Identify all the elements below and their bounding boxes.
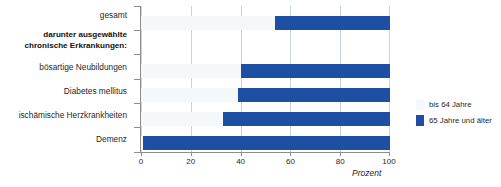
category-label-boesartige-neubildungen: bösartige Neubildungen (39, 62, 127, 73)
x-axis-line (141, 152, 390, 153)
y-axis-tick (134, 79, 141, 80)
bar-segment-bis-64-jahre (141, 64, 241, 78)
legend-swatch-icon-bis-64-jahre (416, 99, 424, 110)
category-group-header-line2: chronische Erkrankungen: (24, 41, 127, 50)
x-axis-tick-label-40: 40 (236, 157, 245, 166)
x-axis-tick-label-0: 0 (139, 157, 143, 166)
category-label-ischaemische-herzkrankheiten: ischämische Herzkrankheiten (19, 110, 127, 121)
legend-label-65-jahre-und-aelter: 65 Jahre und älter (429, 116, 492, 125)
y-axis-tick (134, 6, 141, 7)
y-axis-category-labels: gesamt darunter ausgewählte chronische E… (0, 0, 133, 152)
bar-row-ischaemische-herzkrankheiten (141, 112, 390, 126)
bar-row-gesamt (141, 16, 390, 30)
x-axis-tick (241, 152, 242, 156)
legend-swatch-icon-65-jahre-und-aelter (416, 115, 424, 126)
bar-segment-65-jahre-und-aelter (275, 16, 390, 30)
bar-segment-65-jahre-und-aelter (241, 64, 390, 78)
legend-item-bis-64-jahre: bis 64 Jahre (416, 96, 492, 112)
x-axis-tick-label-100: 100 (382, 157, 395, 166)
bar-row-boesartige-neubildungen (141, 64, 390, 78)
y-axis-tick (134, 54, 141, 55)
x-axis-tick (389, 152, 390, 156)
category-group-header-line1: darunter ausgewählte (43, 30, 127, 39)
legend-item-65-jahre-und-aelter: 65 Jahre und älter (416, 112, 492, 128)
y-axis-tick (134, 152, 141, 153)
x-axis-tick-label-20: 20 (186, 157, 195, 166)
y-axis-tick (134, 30, 141, 31)
x-axis-tick (340, 152, 341, 156)
x-axis-tick-label-80: 80 (336, 157, 345, 166)
x-axis-tick (141, 152, 142, 156)
y-axis-tick (134, 103, 141, 104)
x-axis-unit-label: Prozent (352, 168, 381, 178)
category-label-demenz: Demenz (96, 134, 127, 145)
bar-row-diabetes-mellitus (141, 88, 390, 102)
chart-container: gesamt darunter ausgewählte chronische E… (0, 0, 501, 187)
chart-legend: bis 64 Jahre 65 Jahre und älter (416, 96, 492, 128)
category-label-diabetes-mellitus: Diabetes mellitus (64, 86, 127, 97)
bar-segment-65-jahre-und-aelter (143, 136, 390, 150)
bar-segment-bis-64-jahre (141, 112, 223, 126)
category-label-gesamt: gesamt (100, 10, 127, 21)
bar-segment-bis-64-jahre (141, 16, 275, 30)
legend-label-bis-64-jahre: bis 64 Jahre (429, 100, 471, 109)
bar-segment-65-jahre-und-aelter (238, 88, 390, 102)
bar-segment-bis-64-jahre (141, 88, 238, 102)
bar-segment-65-jahre-und-aelter (223, 112, 390, 126)
x-axis-tick (290, 152, 291, 156)
x-axis-tick (191, 152, 192, 156)
plot-area (141, 6, 390, 152)
bar-row-demenz (141, 136, 390, 150)
category-group-header: darunter ausgewählte chronische Erkranku… (24, 30, 127, 51)
x-axis-tick-label-60: 60 (286, 157, 295, 166)
y-axis-tick (134, 127, 141, 128)
